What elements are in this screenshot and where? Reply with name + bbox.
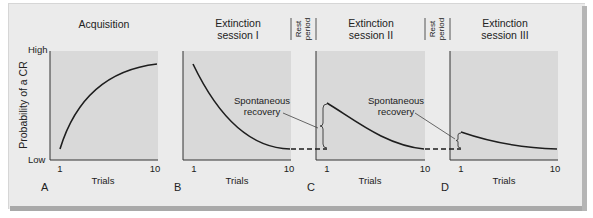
- panel-d-letter: D: [441, 181, 449, 193]
- panel-b-x-end: 10: [284, 163, 295, 174]
- panel-b-x-start: 1: [191, 163, 196, 174]
- panel-a-x-end: 10: [150, 163, 161, 174]
- panel-c-letter: C: [307, 181, 315, 193]
- panel-d-x-label: Trials: [493, 175, 516, 186]
- panel-a-letter: A: [41, 181, 49, 193]
- rest-period-1-label-line1: Rest: [294, 20, 303, 37]
- y-axis-label: Probability of a CR: [17, 61, 29, 149]
- panel-c-x-start: 1: [324, 163, 329, 174]
- panel-a-title: Acquisition: [79, 18, 130, 30]
- panel-b-x-label: Trials: [226, 175, 249, 186]
- panel-d-title-line2: session III: [481, 29, 528, 41]
- annotation-2-line1: Spontaneous: [368, 95, 424, 106]
- panel-a-x-start: 1: [57, 163, 62, 174]
- panel-b-title-line1: Extinction: [215, 17, 261, 29]
- panel-a-x-label: Trials: [92, 175, 115, 186]
- panel-d-x-start: 1: [458, 163, 463, 174]
- annotation-1-line1: Spontaneous: [234, 95, 290, 106]
- panel-d-x-end: 10: [550, 163, 561, 174]
- panel-b-title-line2: session I: [217, 29, 258, 41]
- panel-c-x-label: Trials: [359, 175, 382, 186]
- panel-d-title-line1: Extinction: [482, 17, 528, 29]
- conditioning-figure: High Low Probability of a CR Acquisition…: [0, 0, 593, 218]
- rest-period-2-label-line1: Rest: [428, 20, 437, 37]
- rest-period-2-label-line2: period: [437, 18, 446, 40]
- annotation-2-line2: recovery: [378, 106, 415, 117]
- rest-period-1-label-line2: period: [303, 18, 312, 40]
- panel-b-letter: B: [174, 181, 181, 193]
- panel-c-x-end: 10: [420, 163, 431, 174]
- panel-c-title-line2: session II: [349, 29, 393, 41]
- y-low-label: Low: [28, 154, 46, 165]
- y-high-label: High: [28, 44, 48, 55]
- annotation-1-line2: recovery: [244, 106, 281, 117]
- panel-c-title-line1: Extinction: [348, 17, 394, 29]
